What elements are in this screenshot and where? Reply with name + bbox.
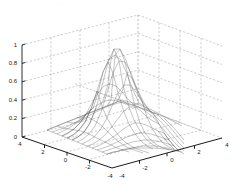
y-tick-label-minus4: -4 <box>107 173 113 179</box>
grid-floor <box>22 84 222 160</box>
z-tick-label-0.4: 0.4 <box>9 97 18 103</box>
y-tick-label-0: 0 <box>64 157 68 163</box>
x-axis <box>112 138 222 168</box>
x-tick-label-0: 0 <box>170 157 174 163</box>
z-tick-label-0.2: 0.2 <box>9 115 18 121</box>
grid-wall-left <box>22 15 138 130</box>
y-axis <box>22 137 112 168</box>
surface-plot-canvas: 1 0.8 0.6 0.4 0.2 0 4 2 0 -2 -4 -4 -2 0 … <box>0 0 244 187</box>
z-tick-label-0.6: 0.6 <box>9 78 18 84</box>
z-axis <box>22 44 26 137</box>
z-tick-label-1: 1 <box>14 42 18 48</box>
z-tick-label-0: 0 <box>14 134 18 140</box>
x-tick-label-2: 2 <box>197 149 201 155</box>
matlab-figure-window: · · · <box>0 0 244 187</box>
y-tick-label-4: 4 <box>18 141 22 147</box>
y-tick-label-2: 2 <box>41 149 45 155</box>
gaussian-mesh-surface <box>47 49 184 154</box>
x-tick-label-4: 4 <box>225 142 229 148</box>
x-tick-label-minus4: -4 <box>119 173 125 179</box>
grid-wall-right <box>138 15 222 130</box>
z-tick-label-0.8: 0.8 <box>9 60 18 66</box>
mesh-front-shading <box>62 108 179 151</box>
x-tick-label-minus2: -2 <box>142 165 148 171</box>
y-tick-label-minus2: -2 <box>85 164 91 170</box>
